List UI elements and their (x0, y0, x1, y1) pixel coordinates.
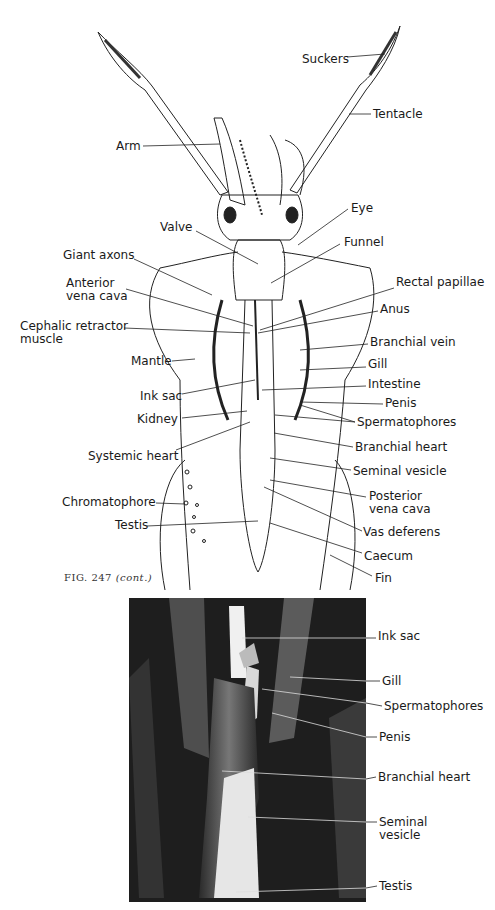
photo-label-ink-sac: Ink sac (378, 630, 420, 643)
photo-label-spermatophores: Spermatophores (384, 700, 483, 713)
photo-label-penis: Penis (379, 731, 410, 744)
photo-label-testis: Testis (379, 880, 412, 893)
photo-label-gill: Gill (382, 675, 401, 688)
photo-label-branchial-heart: Branchial heart (378, 771, 470, 784)
photo-label-seminal-vesicle: Seminal vesicle (379, 816, 427, 842)
